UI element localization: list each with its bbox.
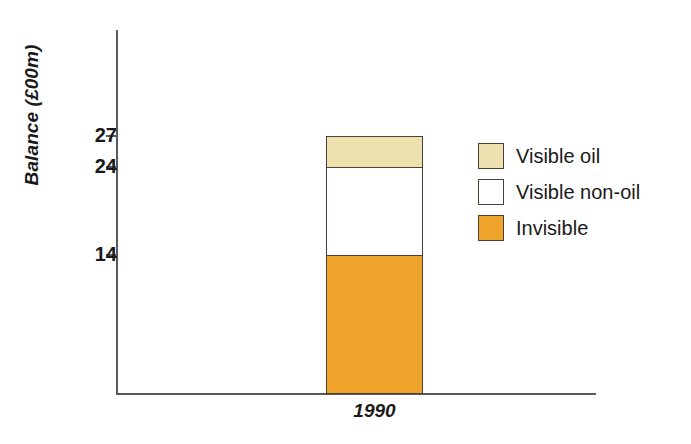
legend-label: Visible non-oil: [516, 182, 640, 202]
bar-segment-invisible: [326, 255, 423, 394]
y-tick-label: 24: [61, 156, 117, 176]
bar-segment-visible-oil: [326, 136, 423, 168]
y-axis-title: Balance (£00m): [21, 30, 43, 200]
bar-segment-visible-non-oil: [326, 167, 423, 256]
x-axis-category-label-1990: 1990: [296, 400, 453, 422]
legend-item-invisible: Invisible: [478, 210, 640, 246]
stacked-bar-chart: Balance (£00m) 27 24 14 1990 Visible oil…: [0, 0, 691, 444]
y-tick-label: 14: [61, 244, 117, 264]
legend-swatch-icon: [478, 179, 504, 205]
legend-label: Invisible: [516, 218, 588, 238]
chart-legend: Visible oil Visible non-oil Invisible: [478, 138, 640, 246]
bar-1990: [326, 0, 423, 444]
y-tick-label: 27: [61, 125, 117, 145]
legend-item-visible-oil: Visible oil: [478, 138, 640, 174]
legend-swatch-icon: [478, 215, 504, 241]
legend-label: Visible oil: [516, 146, 600, 166]
legend-swatch-icon: [478, 143, 504, 169]
y-axis-line: [116, 30, 118, 395]
legend-item-visible-non-oil: Visible non-oil: [478, 174, 640, 210]
